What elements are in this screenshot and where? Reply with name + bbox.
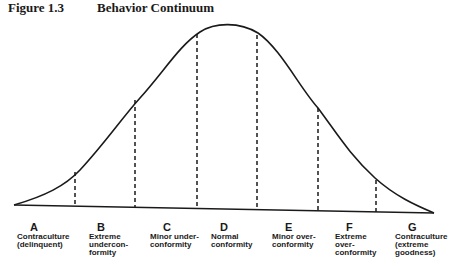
category-label-b: Extreme undercon- formity bbox=[89, 233, 128, 257]
category-label-a: Contraculture (delinquent) bbox=[17, 233, 69, 249]
category-label-e: Minor over- conformity bbox=[272, 233, 316, 249]
category-label-f: Extreme over- conformity bbox=[335, 233, 376, 257]
category-label-d: Normal conformity bbox=[211, 233, 252, 249]
category-label-c: Minor under- conformity bbox=[150, 233, 199, 249]
category-label-g: Contraculture (extreme goodness) bbox=[395, 233, 447, 257]
distribution-curve bbox=[14, 25, 434, 213]
baseline-axis bbox=[14, 205, 434, 213]
